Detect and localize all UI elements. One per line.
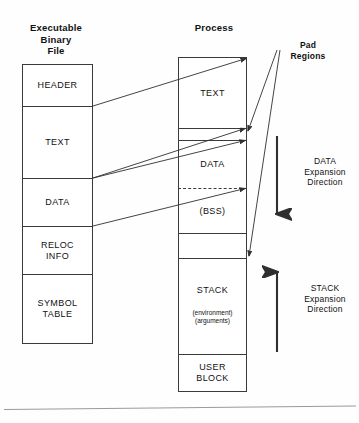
pad-regions-line-1: Pad bbox=[276, 40, 340, 51]
caption-line-2: Binary bbox=[14, 34, 98, 46]
binary-segment-text: TEXT bbox=[22, 106, 93, 178]
process-segment-stack-sub-arguments: (arguments) bbox=[195, 317, 230, 325]
process-segment-user-label-line1: USER bbox=[199, 362, 226, 373]
data-expansion-line-1: DATA bbox=[292, 156, 358, 167]
stack-expansion-line-1: STACK bbox=[292, 283, 358, 294]
binary-segment-text-label: TEXT bbox=[45, 137, 70, 148]
binary-segment-symtab-label-line2: TABLE bbox=[43, 309, 73, 320]
process-segment-text-label: TEXT bbox=[200, 88, 225, 99]
binary-segment-data-label: DATA bbox=[45, 197, 69, 208]
binary-segment-header-label: HEADER bbox=[38, 80, 78, 91]
process-segment-stack-sub-environment: (environment) bbox=[192, 309, 232, 317]
process-segment-user-label-line2: BLOCK bbox=[196, 373, 229, 384]
process-segment-pad-region-2 bbox=[178, 233, 247, 258]
binary-segment-reloc-info: RELOC INFO bbox=[22, 226, 93, 274]
process-segment-stack: STACK (environment) (arguments) bbox=[178, 258, 247, 354]
process-segment-data-label: DATA bbox=[200, 159, 224, 170]
pad-regions-line-2: Regions bbox=[276, 51, 340, 62]
binary-file-column-caption: Executable Binary File bbox=[14, 22, 98, 57]
pad-regions-annotation: Pad Regions bbox=[276, 40, 340, 61]
leader-pad-regions-to-pad2 bbox=[249, 50, 280, 256]
data-expansion-line-2: Expansion bbox=[292, 167, 358, 178]
process-segment-user-block: USER BLOCK bbox=[178, 354, 247, 392]
page-bottom-rule bbox=[4, 406, 356, 410]
process-segment-data: DATA bbox=[178, 140, 247, 188]
caption-line-3: File bbox=[14, 45, 98, 57]
process-segment-text: TEXT bbox=[178, 57, 247, 128]
binary-segment-reloc-label-line2: INFO bbox=[46, 251, 69, 262]
memory-layout-diagram: Executable Binary File Process HEADER TE… bbox=[0, 0, 359, 423]
stack-expansion-annotation: STACK Expansion Direction bbox=[292, 283, 358, 315]
binary-segment-header: HEADER bbox=[22, 64, 93, 106]
stack-expansion-line-2: Expansion bbox=[292, 294, 358, 305]
caption-line-1: Executable bbox=[14, 22, 98, 34]
process-segment-bss: (BSS) bbox=[178, 188, 247, 233]
stack-expansion-line-3: Direction bbox=[292, 304, 358, 315]
data-expansion-line-3: Direction bbox=[292, 177, 358, 188]
binary-segment-symtab-label-line1: SYMBOL bbox=[38, 298, 78, 309]
binary-segment-reloc-label-line1: RELOC bbox=[41, 240, 74, 251]
binary-segment-data: DATA bbox=[22, 178, 93, 226]
process-segment-bss-label: (BSS) bbox=[199, 206, 225, 217]
data-expansion-annotation: DATA Expansion Direction bbox=[292, 156, 358, 188]
leader-pad-regions-to-pad1 bbox=[248, 50, 277, 131]
binary-segment-symbol-table: SYMBOL TABLE bbox=[22, 274, 93, 344]
process-segment-stack-label: STACK bbox=[197, 285, 228, 296]
process-segment-pad-region-1 bbox=[178, 128, 247, 140]
process-column-caption: Process bbox=[178, 22, 250, 34]
